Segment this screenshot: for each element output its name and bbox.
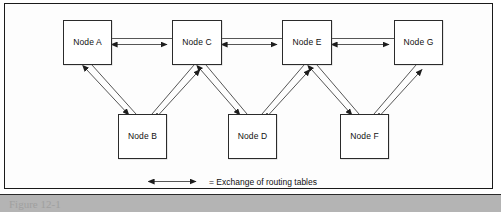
- node-d[interactable]: Node D: [228, 114, 277, 159]
- caption-band: Figure 12-1: [0, 194, 501, 212]
- node-f[interactable]: Node F: [340, 114, 389, 159]
- legend-arrow-slot: [148, 177, 200, 188]
- figure-caption: Figure 12-1: [9, 198, 61, 210]
- node-e-label: Node E: [293, 38, 322, 47]
- legend: = Exchange of routing tables: [148, 176, 317, 188]
- figure-root: Node A Node C Node E Node G Node B Node …: [0, 0, 501, 212]
- node-c-label: Node C: [182, 38, 211, 47]
- node-a[interactable]: Node A: [63, 20, 112, 65]
- node-g-label: Node G: [404, 38, 434, 47]
- node-c[interactable]: Node C: [172, 20, 222, 65]
- legend-label: = Exchange of routing tables: [209, 178, 317, 187]
- node-b[interactable]: Node B: [118, 114, 167, 159]
- node-e[interactable]: Node E: [282, 20, 332, 65]
- node-g[interactable]: Node G: [394, 20, 443, 65]
- node-b-label: Node B: [128, 132, 157, 141]
- node-d-label: Node D: [238, 132, 267, 141]
- node-f-label: Node F: [350, 132, 378, 141]
- node-a-label: Node A: [73, 38, 101, 47]
